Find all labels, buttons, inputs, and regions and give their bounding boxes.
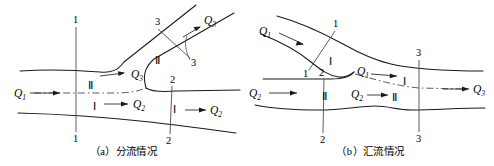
- label-section-1-top: 1: [73, 14, 78, 25]
- caption-panel-a: （a）分流情况: [0, 143, 247, 158]
- section-line-2-2: [170, 86, 172, 134]
- label-section-3-bottom: 3: [191, 57, 196, 68]
- label-section-3-top: 3: [416, 47, 421, 58]
- arrow-q2-post: [367, 93, 388, 98]
- arrow-q3-outlet: [443, 87, 469, 92]
- label-zone-II-left: Ⅱ: [88, 79, 93, 91]
- label-zone-I-downstream: Ⅰ: [403, 75, 406, 87]
- label-q3-outlet: Q3: [473, 83, 485, 98]
- label-q1-inlet: Q1: [259, 25, 271, 40]
- channel-wall-lower-main: [255, 105, 485, 110]
- arrow-q1-post: [371, 73, 397, 78]
- panel-a-dividing-flow: Q1 Q3 Q2 Q3 Q2 1 1 3 3 2 2 Ⅱ Ⅰ Ⅱ Ⅰ: [0, 0, 247, 166]
- channel-wall-upper-main: [20, 5, 196, 72]
- label-zone-I-right: Ⅰ: [173, 103, 176, 115]
- label-zone-II-downstream: Ⅱ: [392, 91, 397, 103]
- arrow-q2-mid: [104, 102, 128, 107]
- arrow-q1-inlet: [30, 91, 60, 96]
- label-section-1-bottom: 1: [303, 68, 308, 79]
- label-q2-mid: Q2: [133, 98, 145, 113]
- label-section-3-top: 3: [155, 16, 160, 27]
- label-q2-inlet: Q2: [249, 87, 261, 102]
- label-section-1-top: 1: [333, 18, 338, 29]
- channel-wall-junction-nose: [146, 88, 240, 92]
- label-q2-post: Q2: [351, 88, 363, 103]
- label-zone-I-tributary: Ⅰ: [329, 55, 332, 67]
- label-section-2-top: 2: [319, 67, 324, 78]
- label-q2-right: Q2: [210, 104, 222, 119]
- label-q1-inlet: Q1: [14, 87, 26, 102]
- channel-wall-lower-main: [18, 113, 236, 133]
- channel-wall-junction-nose: [263, 72, 354, 79]
- flow-centerline-dashed: [355, 74, 463, 89]
- label-zone-II-main: Ⅱ: [322, 90, 327, 102]
- label-q1-post: Q1: [357, 65, 369, 80]
- arrow-q3-exit: [183, 26, 201, 37]
- panel-b-combining-flow: Q1 Q2 Q1 Q2 Q3 1 1 2 2 3 3 Ⅰ Ⅱ Ⅰ Ⅱ: [247, 0, 494, 166]
- caption-panel-b: （b）汇流情况: [247, 143, 494, 158]
- section-line-2-2: [323, 79, 324, 133]
- label-q3-branch: Q3: [131, 68, 143, 83]
- label-section-2-top: 2: [170, 74, 175, 85]
- label-zone-I-left: Ⅰ: [93, 100, 96, 112]
- label-zone-II-branch: Ⅱ: [155, 54, 160, 66]
- channel-wall-tributary-upper: [277, 16, 483, 71]
- arrow-q2-inlet: [269, 91, 297, 96]
- figure-root: Q1 Q3 Q2 Q3 Q2 1 1 3 3 2 2 Ⅱ Ⅰ Ⅱ Ⅰ: [0, 0, 494, 166]
- arrow-q2-right: [185, 108, 206, 113]
